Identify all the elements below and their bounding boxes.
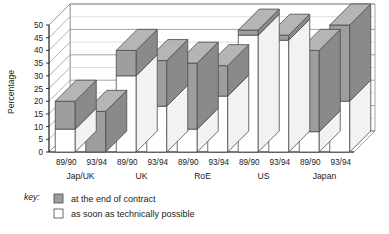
group-label-jap-uk: Jap/UK — [66, 171, 94, 181]
y-tick-label: 35 — [34, 59, 44, 68]
bar-segment-shaded-front — [116, 50, 136, 75]
bar-segment-shaded-front — [238, 30, 258, 35]
group-label-roe: RoE — [194, 171, 211, 181]
x-tick-label-89-90: 89/90 — [117, 158, 138, 167]
x-tick-label-93-94: 93/94 — [209, 158, 230, 167]
y-tick-label: 5 — [38, 135, 43, 144]
x-tick-label-93-94: 93/94 — [331, 158, 352, 167]
bar-segment-white-side — [289, 19, 310, 152]
group-label-uk: UK — [136, 171, 148, 181]
y-axis-title: Percentage — [6, 70, 16, 114]
y-tick-label: 15 — [34, 110, 44, 119]
y-tick-label: 0 — [38, 148, 43, 157]
group-label-japan: Japan — [313, 171, 337, 181]
y-tick-label: 20 — [34, 97, 44, 106]
bar-segment-white-front — [55, 129, 75, 152]
x-tick-label-89-90: 89/90 — [239, 158, 260, 167]
x-tick-label-89-90: 89/90 — [178, 158, 199, 167]
bar-segment-shaded-front — [55, 101, 75, 129]
chart-container: 0510152025303540455093/9489/9093/9489/90… — [0, 0, 389, 234]
group-label-us: US — [258, 171, 270, 181]
legend-swatch-white — [54, 209, 63, 218]
x-tick-label-89-90: 89/90 — [300, 158, 321, 167]
y-tick-label: 45 — [34, 34, 44, 43]
y-tick-label: 10 — [34, 123, 44, 132]
y-tick-label: 50 — [34, 21, 44, 30]
y-tick-label: 30 — [34, 72, 44, 81]
y-tick-label: 25 — [34, 85, 44, 94]
legend-label-as-soon-as-possible: as soon as technically possible — [71, 209, 195, 219]
legend-swatch-shaded — [54, 194, 63, 203]
bar-chart: 0510152025303540455093/9489/9093/9489/90… — [0, 0, 389, 234]
legend-label-at-end-of-contract: at the end of contract — [71, 194, 156, 204]
x-tick-label-93-94: 93/94 — [87, 158, 108, 167]
y-tick-label: 40 — [34, 46, 44, 55]
x-tick-label-93-94: 93/94 — [148, 158, 169, 167]
x-tick-label-93-94: 93/94 — [270, 158, 291, 167]
legend — [54, 194, 63, 218]
x-tick-label-89-90: 89/90 — [56, 158, 77, 167]
bar-segment-white-side — [258, 14, 279, 152]
legend-key-label: key: — [24, 192, 40, 202]
